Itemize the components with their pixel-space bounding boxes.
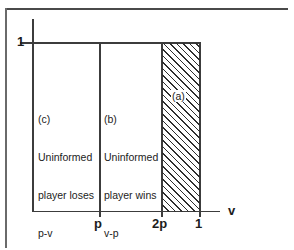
region-c-line3: p-v	[38, 227, 94, 240]
region-a-tag: (a)	[171, 90, 186, 102]
figure-root: 1 p 2p 1 v (c) Uninformed player loses p…	[0, 0, 294, 250]
region-b-line2: player wins	[104, 189, 158, 202]
region-b-line3: v-p	[104, 227, 158, 240]
y-axis-line	[32, 19, 34, 212]
region-b-label-group: (b) Uninformed player wins v-p	[104, 88, 158, 250]
region-c-line1: Uninformed	[38, 151, 94, 164]
region-c-label-group: (c) Uninformed player loses p-v	[38, 88, 94, 250]
region-c-line2: player loses	[38, 189, 94, 202]
y-axis-tick-label-one: 1	[17, 34, 24, 49]
region-b-tag: (b)	[104, 113, 158, 126]
divider-line-p	[99, 42, 101, 212]
hatched-region-a	[162, 43, 200, 212]
x-axis-tick-label-p: p	[94, 216, 102, 231]
plot-area: 1 p 2p 1 v (c) Uninformed player loses p…	[0, 0, 294, 250]
x-axis-tick-label-one: 1	[195, 216, 202, 231]
region-b-line1: Uninformed	[104, 151, 158, 164]
region-c-tag: (c)	[38, 113, 94, 126]
x-axis-variable-label: v	[228, 203, 235, 218]
